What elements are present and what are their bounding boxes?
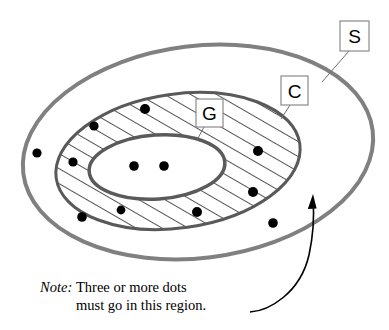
note-text-line-2: must go in this region. [76, 296, 206, 314]
note-text-line-1: Three or more dots [76, 278, 187, 296]
element-dot [89, 121, 98, 130]
element-dot [140, 104, 150, 114]
element-dot [268, 218, 278, 228]
element-dot [253, 146, 263, 156]
element-dot [192, 207, 202, 217]
note-line-2-row: must go in this region. [40, 296, 270, 314]
set-label-text: C [288, 81, 302, 102]
element-dot [129, 161, 139, 171]
note-keyword: Note: [40, 278, 76, 296]
set-label-c: C [281, 76, 308, 105]
element-dot [68, 157, 77, 166]
element-dot [32, 148, 41, 157]
set-label-text: S [348, 26, 361, 47]
element-dot [159, 161, 169, 171]
element-dot [248, 187, 258, 197]
element-dot [117, 206, 126, 215]
set-label-g: G [196, 99, 223, 127]
note-line-1-row: Note: Three or more dots [40, 278, 270, 296]
set-label-s: S [340, 21, 369, 51]
element-dot [77, 212, 87, 222]
set-label-text: G [202, 103, 217, 124]
note-block: Note: Three or more dots must go in this… [40, 278, 270, 314]
